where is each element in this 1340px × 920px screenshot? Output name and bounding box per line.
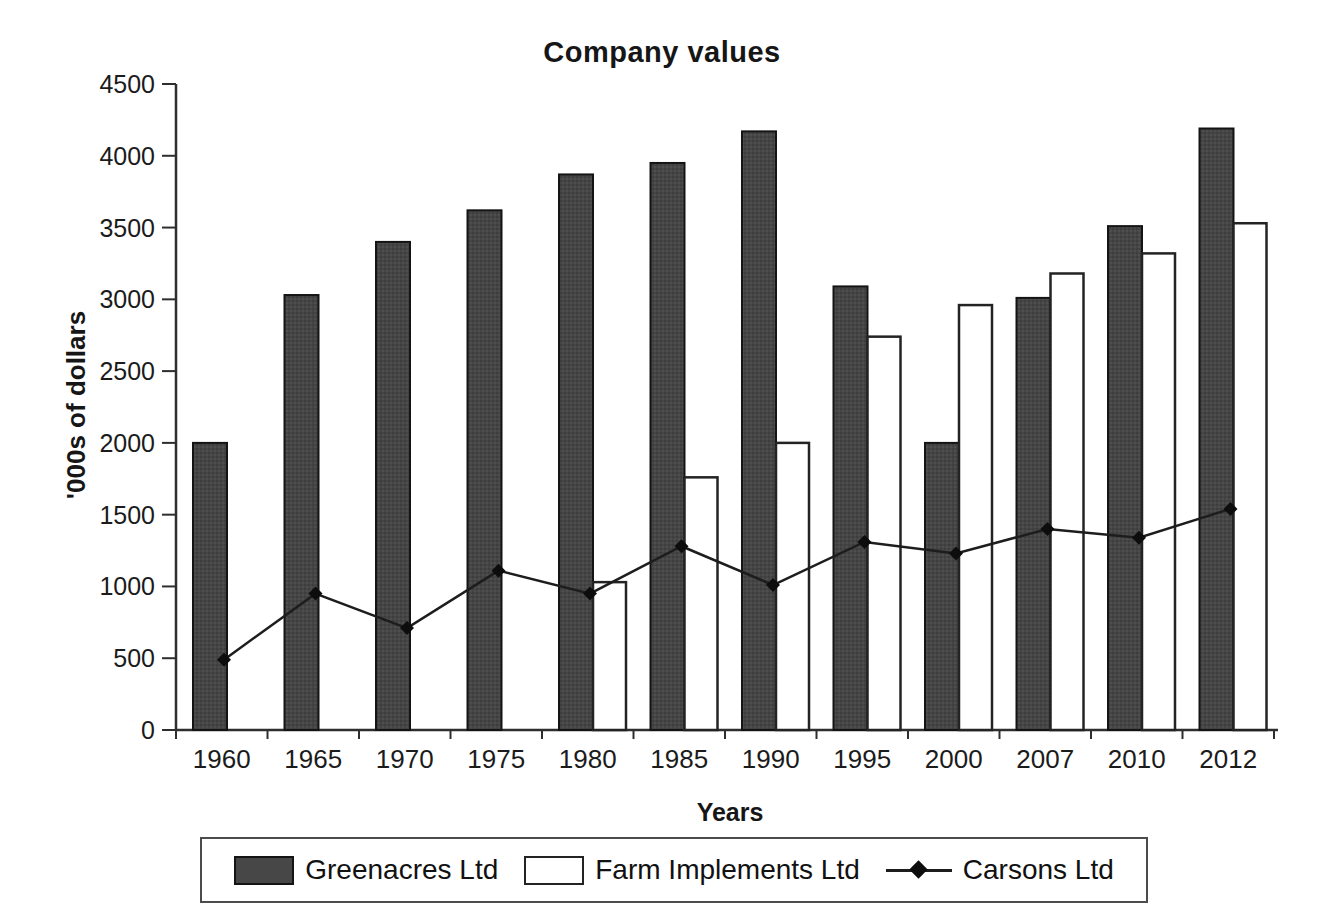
bar-greenacres-ltd-2000	[925, 443, 959, 730]
x-label-1970: 1970	[376, 744, 434, 774]
bar-greenacres-ltd-1995	[834, 286, 868, 730]
carsons-line-marker-icon	[886, 862, 952, 878]
bar-greenacres-ltd-1965	[285, 295, 319, 730]
x-label-2010: 2010	[1108, 744, 1166, 774]
y-tick-label-3000: 3000	[99, 285, 155, 313]
x-label-1990: 1990	[742, 744, 800, 774]
x-label-2012: 2012	[1199, 744, 1257, 774]
bar-greenacres-ltd-1980	[559, 174, 593, 730]
bar-farm-implements-ltd-1980	[593, 582, 626, 730]
farm-implements-bar-swatch-icon	[524, 856, 584, 885]
x-label-2000: 2000	[925, 744, 983, 774]
bar-farm-implements-ltd-2000	[959, 305, 992, 730]
bar-greenacres-ltd-1975	[468, 210, 502, 730]
x-label-1985: 1985	[650, 744, 708, 774]
bar-greenacres-ltd-2010	[1108, 226, 1142, 730]
legend-item-carsons: Carsons Ltd	[886, 854, 1114, 886]
bar-farm-implements-ltd-2007	[1051, 273, 1084, 730]
y-tick-label-3500: 3500	[99, 214, 155, 242]
y-tick-label-1000: 1000	[99, 572, 155, 600]
legend-label-greenacres: Greenacres Ltd	[305, 854, 498, 886]
bar-greenacres-ltd-1960	[193, 443, 227, 730]
x-label-1965: 1965	[284, 744, 342, 774]
bar-greenacres-ltd-1990	[742, 131, 776, 730]
legend-diamond-icon	[909, 860, 927, 878]
legend-item-greenacres: Greenacres Ltd	[234, 854, 498, 886]
bar-farm-implements-ltd-1985	[685, 477, 718, 730]
legend-label-farm-implements: Farm Implements Ltd	[595, 854, 860, 886]
bar-farm-implements-ltd-2010	[1142, 253, 1175, 730]
bar-farm-implements-ltd-1990	[776, 443, 809, 730]
greenacres-bar-swatch-icon	[234, 856, 294, 885]
y-tick-label-4500: 4500	[99, 70, 155, 98]
y-tick-label-4000: 4000	[99, 142, 155, 170]
x-label-1975: 1975	[467, 744, 525, 774]
bar-farm-implements-ltd-1995	[868, 337, 901, 730]
y-tick-label-1500: 1500	[99, 501, 155, 529]
x-label-1995: 1995	[833, 744, 891, 774]
bar-greenacres-ltd-1970	[376, 242, 410, 730]
x-label-1980: 1980	[559, 744, 617, 774]
bar-farm-implements-ltd-2012	[1234, 223, 1267, 730]
y-tick-label-0: 0	[141, 716, 155, 744]
x-axis-label: Years	[630, 798, 830, 827]
x-label-1960: 1960	[193, 744, 251, 774]
chart-root: Company values '000s of dollars 05001000…	[0, 0, 1340, 920]
y-tick-label-2000: 2000	[99, 429, 155, 457]
legend-label-carsons: Carsons Ltd	[963, 854, 1114, 886]
bar-greenacres-ltd-2012	[1200, 129, 1234, 730]
x-label-2007: 2007	[1016, 744, 1074, 774]
legend-item-farm-implements: Farm Implements Ltd	[524, 854, 860, 886]
legend: Greenacres Ltd Farm Implements Ltd Carso…	[200, 837, 1148, 903]
y-tick-label-500: 500	[113, 644, 155, 672]
plot-area: 0500100015002000250030003500400045001960…	[0, 0, 1340, 920]
y-tick-label-2500: 2500	[99, 357, 155, 385]
bar-greenacres-ltd-1985	[651, 163, 685, 730]
bar-greenacres-ltd-2007	[1017, 298, 1051, 730]
